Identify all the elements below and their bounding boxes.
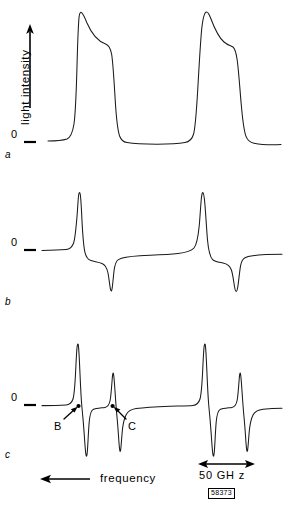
figure-id-box: 58373	[208, 488, 235, 499]
trace-b	[42, 193, 282, 292]
y-axis-label: light intensity	[20, 50, 32, 125]
frequency-axis-group	[40, 475, 90, 483]
scale-bar-label: 50 GH z	[199, 470, 245, 481]
panel-letter-c: c	[5, 450, 10, 460]
panel-c-group	[24, 344, 282, 456]
scale-bar-group	[198, 460, 255, 468]
zero-label-b: 0	[11, 237, 17, 248]
trace-layer	[0, 0, 289, 508]
zero-label-a: 0	[11, 129, 17, 140]
trace-c	[42, 344, 282, 456]
x-axis-label: frequency	[100, 473, 156, 485]
spectroscopy-figure: light intensity 0 a 0 b 0 c B C frequenc…	[0, 0, 289, 508]
panel-letter-a: a	[5, 150, 11, 160]
annotation-label-b: B	[54, 421, 61, 432]
zero-label-c: 0	[11, 392, 17, 403]
panel-a-group	[24, 12, 281, 145]
trace-a	[48, 12, 281, 145]
annotation-label-c: C	[128, 421, 136, 432]
panel-b-group	[24, 193, 282, 292]
panel-letter-b: b	[5, 297, 11, 307]
